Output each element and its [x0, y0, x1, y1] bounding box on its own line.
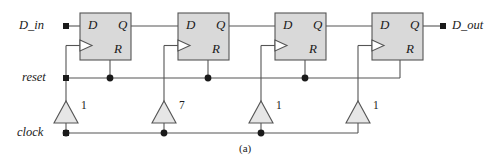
reset-terminal [63, 75, 69, 81]
ff4-pin-r: R [406, 42, 414, 55]
circuit-figure: D_in D_out reset clock D Q R D Q R D Q R… [0, 0, 503, 158]
figure-caption: (a) [239, 143, 251, 154]
schematic-canvas [0, 0, 503, 158]
junction-reset-ff2 [205, 75, 212, 82]
ff4-pin-d: D [380, 18, 389, 31]
ff3-pin-r: R [309, 42, 317, 55]
buf3-triangle [249, 101, 273, 123]
junction-reset-ff1 [107, 75, 114, 82]
ff1-pin-r: R [114, 42, 122, 55]
ff3-pin-d: D [283, 18, 292, 31]
buf2-triangle [152, 101, 176, 123]
ff2-pin-q: Q [216, 18, 225, 31]
ff2-pin-r: R [212, 42, 220, 55]
ff3-pin-q: Q [313, 18, 322, 31]
buf1-triangle [54, 101, 78, 123]
junction-clock-buf2 [161, 130, 168, 137]
signal-label-reset: reset [22, 71, 46, 84]
buf4-label: 1 [373, 100, 379, 112]
ff2-pin-d: D [186, 18, 195, 31]
signal-label-d-out: D_out [452, 19, 483, 32]
ff1-pin-d: D [88, 18, 97, 31]
buf3-label: 1 [276, 100, 282, 112]
junction-clock-buf1 [63, 130, 70, 137]
signal-label-d-in: D_in [19, 19, 44, 32]
d-in-terminal [63, 23, 69, 29]
signal-label-clock: clock [17, 126, 43, 139]
buf4-triangle [346, 101, 370, 123]
junction-clock-buf3 [258, 130, 265, 137]
ff1-pin-q: Q [118, 18, 127, 31]
buf2-label: 7 [179, 100, 185, 112]
buf1-label: 1 [81, 100, 87, 112]
junction-reset-ff3 [302, 75, 309, 82]
d-out-terminal [440, 23, 446, 29]
ff4-pin-q: Q [410, 18, 419, 31]
